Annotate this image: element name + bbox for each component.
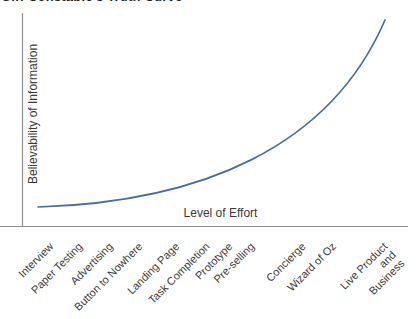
x-axis-label: Level of Effort (163, 206, 278, 220)
y-axis-label: Believability of Information (26, 54, 40, 184)
believability-curve-line (38, 20, 385, 207)
truth-curve-chart: Giff Constable's Truth Curve Believabili… (0, 0, 418, 319)
